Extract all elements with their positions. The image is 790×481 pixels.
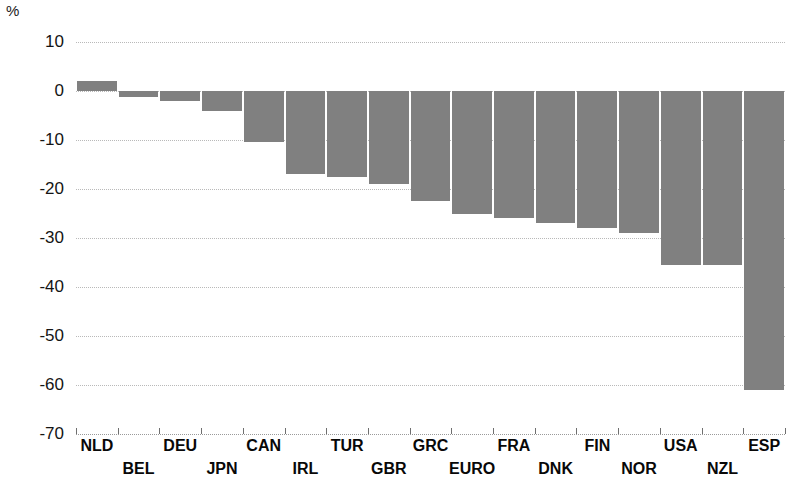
bar-nzl [703, 91, 743, 265]
y-tick-label--40: -40 [2, 277, 64, 297]
x-label-deu: DEU [163, 437, 197, 455]
bar-usa [661, 91, 701, 265]
y-axis-unit-label: % [6, 2, 19, 19]
y-tick-label--50: -50 [2, 326, 64, 346]
bar-chart: % 100-10-20-30-40-50-60-70 NLDBELDEUJPNC… [0, 0, 790, 481]
bar-grc [411, 91, 451, 201]
x-axis-category-labels: NLDBELDEUJPNCANIRLTURGBRGRCEUROFRADNKFIN… [0, 434, 790, 481]
x-label-grc: GRC [413, 437, 449, 455]
y-tick-label-0: 0 [2, 81, 64, 101]
x-label-gbr: GBR [371, 460, 407, 478]
x-label-jpn: JPN [206, 460, 237, 478]
x-label-esp: ESP [748, 437, 780, 455]
x-label-nzl: NZL [707, 460, 738, 478]
y-tick-label-10: 10 [2, 32, 64, 52]
bar-euro [452, 91, 492, 214]
bar-jpn [202, 91, 242, 111]
x-label-tur: TUR [331, 437, 364, 455]
bar-nld [77, 81, 117, 91]
x-label-nor: NOR [621, 460, 657, 478]
x-label-nld: NLD [80, 437, 113, 455]
y-tick-label--10: -10 [2, 130, 64, 150]
bar-nor [619, 91, 659, 233]
bar-irl [286, 91, 326, 174]
bar-dnk [536, 91, 576, 223]
x-label-fra: FRA [497, 437, 530, 455]
bar-can [244, 91, 284, 142]
bar-fin [577, 91, 617, 228]
bar-series [76, 42, 785, 434]
y-tick-label--30: -30 [2, 228, 64, 248]
x-label-dnk: DNK [538, 460, 573, 478]
bar-gbr [369, 91, 409, 184]
y-tick-label--60: -60 [2, 375, 64, 395]
x-label-usa: USA [664, 437, 698, 455]
bar-bel [119, 91, 159, 97]
x-label-can: CAN [246, 437, 281, 455]
bar-deu [160, 91, 200, 101]
x-label-euro: EURO [449, 460, 495, 478]
bar-esp [744, 91, 784, 390]
x-label-irl: IRL [292, 460, 318, 478]
bar-tur [327, 91, 367, 177]
x-label-bel: BEL [123, 460, 155, 478]
bar-fra [494, 91, 534, 218]
y-tick-label--20: -20 [2, 179, 64, 199]
x-label-fin: FIN [584, 437, 610, 455]
